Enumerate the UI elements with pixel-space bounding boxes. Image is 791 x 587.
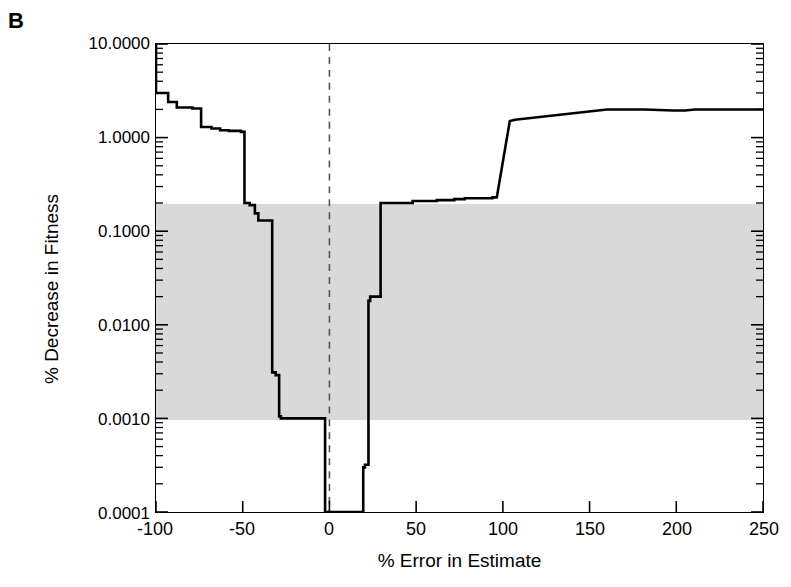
y-axis-major-ticks (156, 44, 763, 512)
y-tick-label: 0.0010 (8, 411, 150, 428)
data-curve-svg (156, 44, 763, 512)
y-axis-title: % Decrease in Fitness (41, 79, 63, 499)
x-tick-label: 200 (662, 520, 692, 538)
x-tick-label: -50 (229, 520, 255, 538)
x-axis-tick-labels: -100-50050100150200250 (0, 520, 791, 550)
y-tick-label: 0.1000 (8, 223, 150, 240)
x-tick-label: -100 (137, 520, 173, 538)
y-axis-minor-ticks (156, 48, 763, 484)
x-tick-label: 100 (488, 520, 518, 538)
x-tick-label: 250 (749, 520, 779, 538)
x-tick-label: 50 (406, 520, 426, 538)
y-tick-label: 10.0000 (8, 35, 150, 52)
x-tick-label: 150 (575, 520, 605, 538)
x-axis-major-ticks (156, 501, 763, 512)
y-tick-label: 0.0100 (8, 317, 150, 334)
plot-area (155, 43, 764, 513)
x-tick-label: 0 (324, 520, 334, 538)
y-axis-tick-labels: 10.00001.00000.10000.01000.00100.0001 (0, 0, 150, 587)
figure-panel-b: B 10.00001.00000.10000.01000.00100.0001 … (0, 0, 791, 587)
fitness-decrease-curve (156, 44, 763, 512)
x-axis-title: % Error in Estimate (155, 550, 764, 572)
y-tick-label: 1.0000 (8, 129, 150, 146)
